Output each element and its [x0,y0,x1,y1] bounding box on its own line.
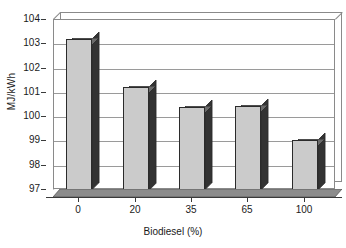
x-axis-tick-label: 100 [284,204,324,215]
bar-front-face [292,140,318,190]
y-axis-title: MJ/kWh [6,52,17,132]
x-axis-title: Biodiesel (%) [0,226,346,237]
x-axis-tick-mark [304,197,305,202]
y-axis-tick-mark [41,116,46,117]
x-axis-line [46,197,342,198]
bar-35[interactable] [179,20,205,190]
y-axis-tick-mark [41,68,46,69]
bar-front-face [235,106,261,190]
bar-side-face [92,32,100,190]
y-axis-tick-label: 102 [14,63,40,73]
y-axis-tick-mark [41,165,46,166]
bar-20[interactable] [123,20,149,190]
x-axis-tick-label: 0 [58,204,98,215]
bar-front-face [66,39,92,190]
y-axis-tick-mark [41,92,46,93]
y-axis-tick-label: 99 [14,135,40,145]
x-axis-tick-mark [135,197,136,202]
x-axis-tick-label: 35 [171,204,211,215]
x-axis-tick-label: 20 [115,204,155,215]
bar-100[interactable] [292,20,318,190]
y-axis-tick-label: 97 [14,184,40,194]
bar-0[interactable] [66,20,92,190]
y-axis-tick-label: 101 [14,87,40,97]
bar-front-face [123,87,149,190]
y-axis-tick-mark [41,189,46,190]
y-axis-tick-label: 98 [14,160,40,170]
y-axis-tick-labels: 104103102101100999897 [14,0,40,248]
plot-floor [53,189,342,197]
y-axis-tick-label: 103 [14,38,40,48]
plot-floor-shape [53,189,342,197]
plot-area [53,19,335,189]
y-axis-tick-label: 100 [14,111,40,121]
bar-chart: 104103102101100999897 MJ/kWh 0203565100 … [0,0,346,248]
bar-front-face [179,107,205,190]
x-axis-tick-mark [191,197,192,202]
x-axis-tick-mark [78,197,79,202]
y-axis-tick-mark [41,19,46,20]
bar-side-face [149,80,157,190]
x-axis-tick-mark [247,197,248,202]
x-axis-tick-label: 65 [227,204,267,215]
y-axis-tick-mark [41,43,46,44]
y-axis-tick-mark [41,140,46,141]
bar-65[interactable] [235,20,261,190]
y-axis-tick-label: 104 [14,14,40,24]
